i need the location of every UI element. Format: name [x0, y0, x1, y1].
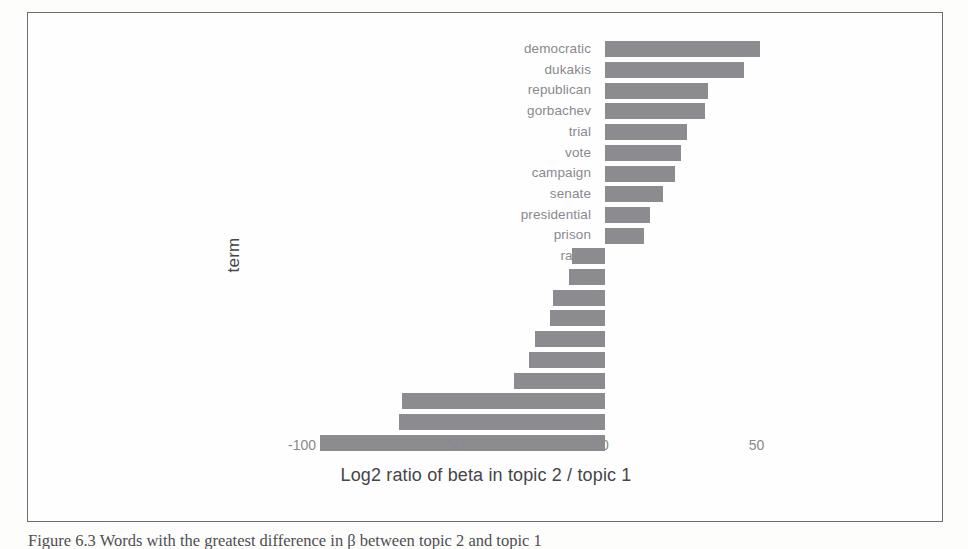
bar — [569, 269, 605, 285]
figure-caption: Figure 6.3 Words with the greatest diffe… — [28, 531, 928, 549]
bar-row-label: senate — [241, 184, 591, 205]
bar-row-label: dukakis — [241, 60, 591, 81]
x-tick-label: -100 — [267, 437, 337, 453]
bar-row: prison — [28, 225, 944, 246]
bar-row-label: vote — [241, 143, 591, 164]
bar — [529, 352, 605, 368]
bar-row: average — [28, 370, 944, 391]
bar-row: fell — [28, 267, 944, 288]
bar-row-label: gorbachev — [241, 101, 591, 122]
bar — [605, 124, 687, 140]
bar-row: senate — [28, 184, 944, 205]
bar — [399, 414, 605, 430]
bar-row: vote — [28, 143, 944, 164]
bar — [550, 310, 605, 326]
bar — [605, 103, 705, 119]
bar-row: rates — [28, 246, 944, 267]
x-tick-label: 50 — [722, 437, 792, 453]
x-axis-ticks: -100-50050 — [28, 437, 944, 459]
bar — [402, 393, 605, 409]
bar-chart-plot: term democraticdukakisrepublicangorbache… — [28, 13, 944, 523]
bar-row: dollar — [28, 329, 944, 350]
x-tick-label: -50 — [419, 437, 489, 453]
bar — [605, 207, 650, 223]
bar — [605, 62, 744, 78]
bar — [553, 290, 605, 306]
bar — [605, 41, 760, 57]
bar — [605, 166, 675, 182]
bar — [514, 373, 605, 389]
bar-row: republican — [28, 80, 944, 101]
bar-row: trial — [28, 122, 944, 143]
bar-row: campaign — [28, 163, 944, 184]
x-axis-title: Log2 ratio of beta in topic 2 / topic 1 — [28, 465, 944, 486]
bar-row-label: campaign — [241, 163, 591, 184]
bar-row: rate — [28, 287, 944, 308]
bar-row: index — [28, 412, 944, 433]
bar-row-label: rates — [241, 246, 591, 267]
bar — [605, 228, 644, 244]
bar-row-label: presidential — [241, 205, 591, 226]
x-tick-label: 0 — [570, 437, 640, 453]
bar — [605, 83, 708, 99]
bar — [605, 145, 681, 161]
bar-row: dukakis — [28, 60, 944, 81]
bar-row-label: prison — [241, 225, 591, 246]
bar-row-label: prices — [241, 308, 591, 329]
bar-row: prices — [28, 308, 944, 329]
bar-row-label: fell — [241, 267, 591, 288]
bar-row-label: trial — [241, 122, 591, 143]
bar-row-label: democratic — [241, 39, 591, 60]
bar-row: presidential — [28, 205, 944, 226]
figure-frame: term democraticdukakisrepublicangorbache… — [27, 12, 943, 522]
bar-row-label: rate — [241, 287, 591, 308]
bar-row: gorbachev — [28, 101, 944, 122]
bar-row-label: republican — [241, 80, 591, 101]
bar-row: stock — [28, 350, 944, 371]
bar-row: democratic — [28, 39, 944, 60]
bar — [605, 186, 663, 202]
scanned-page: term democraticdukakisrepublicangorbache… — [0, 0, 968, 549]
bar-rows: democraticdukakisrepublicangorbachevtria… — [28, 39, 944, 453]
bar — [572, 248, 605, 264]
bar-row: cents — [28, 391, 944, 412]
bar — [535, 331, 605, 347]
